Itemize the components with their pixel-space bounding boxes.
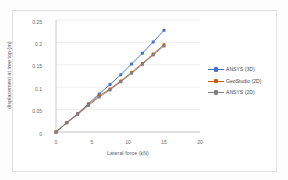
legend-item-ansys-2d[interactable]: ANSYS (2D) — [208, 87, 282, 99]
y-tick-label: 0.15 — [20, 63, 42, 69]
y-tick-label: 0.2 — [20, 41, 42, 47]
data-series-layer — [55, 29, 166, 134]
legend-key-icon — [208, 77, 224, 86]
legend-label: ANSYS (3D) — [226, 66, 255, 73]
legend-label: GeoStudio (2D) — [226, 78, 261, 85]
y-tick-label: 0.1 — [20, 86, 42, 92]
x-tick-label: 20 — [190, 139, 210, 145]
y-tick-label: 0.05 — [20, 108, 42, 114]
legend-label: ANSYS (2D) — [226, 89, 255, 96]
y-tick-label: 0 — [20, 131, 42, 137]
x-tick-label: 10 — [118, 139, 138, 145]
legend-item-ansys-3d[interactable]: ANSYS (3D) — [208, 64, 282, 76]
y-tick-label: 0.25 — [20, 19, 42, 25]
legend-key-icon — [208, 65, 224, 74]
y-axis-title: displacement at tree top (m) — [6, 39, 12, 111]
x-tick-label: 5 — [82, 139, 102, 145]
chart-legend: ANSYS (3D) GeoStudio (2D) ANSYS (2D) — [208, 64, 282, 99]
legend-key-icon — [208, 88, 224, 97]
x-axis-title: Lateral force (kN) — [62, 150, 194, 156]
x-tick-label: 15 — [154, 139, 174, 145]
legend-item-geostudio-2d[interactable]: GeoStudio (2D) — [208, 76, 282, 88]
chart-figure: 0 0.05 0.1 0.15 0.2 0.25 0 5 10 15 20 di… — [0, 0, 288, 180]
x-tick-label: 0 — [46, 139, 66, 145]
